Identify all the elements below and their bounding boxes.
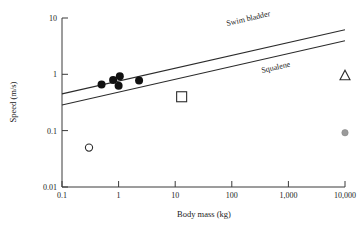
- data-point-open-triangle: [340, 70, 350, 80]
- y-tick-label-1: 1: [53, 70, 57, 79]
- y-tick-label-0.1: 0.1: [47, 127, 57, 136]
- y-tick-label-0.01: 0.01: [43, 183, 57, 192]
- data-point-gray-filled-circle: [342, 130, 348, 136]
- squalene-label: Squalene: [260, 59, 291, 74]
- y-axis-title: Speed (m/s): [8, 81, 18, 122]
- x-tick-label-0.1: 0.1: [57, 191, 67, 200]
- x-axis-title: Body mass (kg): [177, 209, 231, 219]
- x-tick-label-1000: 1,000: [279, 191, 297, 200]
- x-tick-label-10: 10: [171, 191, 179, 200]
- data-markers: [85, 70, 350, 151]
- data-point-open-square: [177, 92, 187, 102]
- x-tick-label-100: 100: [226, 191, 238, 200]
- data-point-filled-circle: [135, 76, 143, 84]
- trend-line-squalene: [62, 41, 345, 105]
- scatter-plot: 10 1 0.1 0.01 0.1 1 10 100 1,000 10,000 …: [0, 0, 364, 234]
- x-tick-label-10000: 10,000: [334, 191, 356, 200]
- data-point-filled-circle: [115, 82, 123, 90]
- chart-figure: 10 1 0.1 0.01 0.1 1 10 100 1,000 10,000 …: [0, 0, 364, 234]
- data-point-open-circle: [85, 144, 92, 151]
- data-point-filled-circle: [116, 72, 124, 80]
- swim-bladder-label: Swim bladder: [225, 9, 271, 28]
- x-tick-label-1: 1: [117, 191, 121, 200]
- data-point-filled-circle: [98, 80, 106, 88]
- axis-frame: [62, 18, 345, 187]
- y-tick-label-10: 10: [49, 14, 57, 23]
